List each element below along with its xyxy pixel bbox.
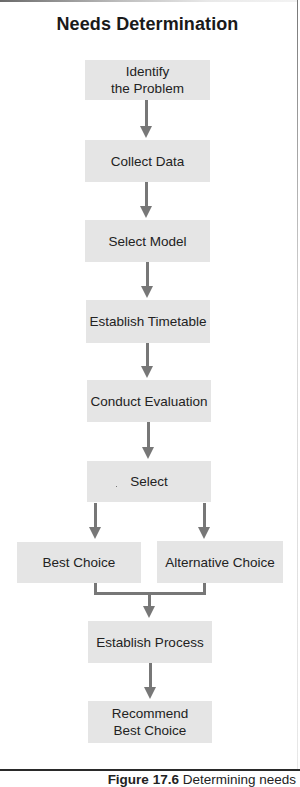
arrow-down-icon <box>89 527 101 539</box>
node-establish-process: Establish Process <box>88 621 212 663</box>
node-alternative-choice: Alternative Choice <box>157 541 283 583</box>
figure-label: Figure 17.6 <box>108 772 179 787</box>
diagram-title: Needs Determination <box>0 14 295 35</box>
arrow-down-icon <box>143 606 155 618</box>
node-best-choice: Best Choice <box>17 542 141 583</box>
arrow-down-icon <box>140 206 152 218</box>
arrow-down-icon <box>141 366 153 378</box>
connector-line <box>203 503 206 530</box>
node-conduct-evaluation: Conduct Evaluation <box>87 380 211 422</box>
top-border <box>0 0 298 2</box>
arrow-down-icon <box>144 687 156 699</box>
node-select-model-label: Select Model <box>108 233 186 250</box>
node-establish-timetable-label: Establish Timetable <box>89 313 206 330</box>
node-conduct-evaluation-label: Conduct Evaluation <box>90 393 207 410</box>
caption-divider <box>0 769 300 771</box>
node-identify-problem-line1: Identify <box>111 63 184 80</box>
node-collect-data-label: Collect Data <box>111 153 185 170</box>
figure-caption-text: Determining needs <box>183 772 296 787</box>
arrow-down-icon <box>140 126 152 138</box>
connector-line <box>94 503 97 530</box>
node-best-choice-label: Best Choice <box>43 554 116 571</box>
node-select: Select <box>87 461 211 502</box>
node-recommend-best-choice: Recommend Best Choice <box>88 701 212 743</box>
node-establish-timetable: Establish Timetable <box>86 300 210 343</box>
node-collect-data: Collect Data <box>85 140 210 182</box>
node-alternative-choice-label: Alternative Choice <box>165 554 275 571</box>
node-identify-problem-line2: the Problem <box>111 80 184 97</box>
node-select-model: Select Model <box>85 220 210 262</box>
connector-line <box>149 663 152 690</box>
node-establish-process-label: Establish Process <box>96 634 203 651</box>
node-select-label: Select <box>130 473 168 490</box>
node-identify-problem: Identify the Problem <box>85 60 210 100</box>
connector-line <box>147 422 150 450</box>
figure-caption: Figure 17.6 Determining needs <box>108 772 296 787</box>
node-recommend-line1: Recommend <box>112 705 189 722</box>
arrow-down-icon <box>198 527 210 539</box>
arrow-down-icon <box>141 286 153 298</box>
node-recommend-line2: Best Choice <box>112 722 189 739</box>
arrow-down-icon <box>142 447 154 459</box>
right-border <box>297 0 298 771</box>
stray-dot <box>116 486 117 487</box>
